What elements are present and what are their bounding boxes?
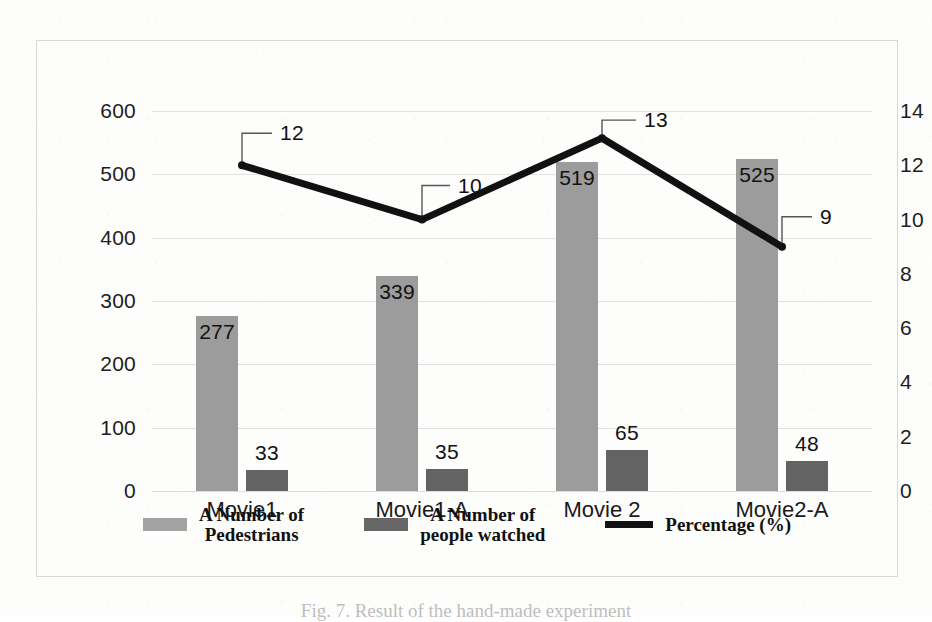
legend-label: Percentage (%) <box>665 515 791 535</box>
legend-item-2[interactable]: Percentage (%) <box>605 515 791 535</box>
y-tick-right-2: 2 <box>900 425 912 449</box>
percentage-line-series <box>152 111 872 491</box>
y-tick-right-12: 12 <box>900 153 924 177</box>
legend-item-1[interactable]: A Number ofpeople watched <box>364 505 545 544</box>
y-tick-left-600: 600 <box>100 99 136 123</box>
y-tick-left-100: 100 <box>100 416 136 440</box>
y-tick-left-0: 0 <box>124 479 136 503</box>
y-tick-right-10: 10 <box>900 208 924 232</box>
callout-leader-2 <box>602 120 636 138</box>
y-tick-right-6: 6 <box>900 316 912 340</box>
legend-swatch-icon <box>605 521 653 528</box>
y-tick-left-400: 400 <box>100 226 136 250</box>
y-tick-right-14: 14 <box>900 99 924 123</box>
gridline-0 <box>152 491 872 492</box>
legend-swatch-icon <box>364 518 408 531</box>
legend-label: A Number ofpeople watched <box>420 505 545 544</box>
legend-label: A Number ofPedestrians <box>199 505 304 544</box>
line-value-label-1: 10 <box>458 174 482 198</box>
line-value-label-0: 12 <box>280 121 304 145</box>
y-tick-right-8: 8 <box>900 262 912 286</box>
y-tick-left-200: 200 <box>100 352 136 376</box>
y-tick-right-0: 0 <box>900 479 912 503</box>
legend-swatch-icon <box>143 518 187 531</box>
line-value-label-2: 13 <box>644 108 668 132</box>
y-tick-left-500: 500 <box>100 162 136 186</box>
line-value-label-3: 9 <box>820 205 832 229</box>
callout-leader-0 <box>242 133 272 165</box>
y-tick-right-4: 4 <box>900 370 912 394</box>
y-tick-left-300: 300 <box>100 289 136 313</box>
callout-leader-3 <box>782 217 812 247</box>
plot-area: 6005004003002001000 14121086420 27733339… <box>152 111 872 491</box>
chart-frame: 6005004003002001000 14121086420 27733339… <box>36 40 898 577</box>
legend-item-0[interactable]: A Number ofPedestrians <box>143 505 304 544</box>
chart-legend: A Number ofPedestriansA Number ofpeople … <box>36 505 898 544</box>
figure-caption: Fig. 7. Result of the hand-made experime… <box>0 600 932 622</box>
